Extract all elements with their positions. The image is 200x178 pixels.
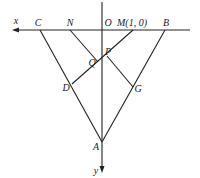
point-g-label: G [134, 83, 141, 94]
point-b-label: B [163, 17, 169, 28]
point-n-label: N [66, 17, 75, 28]
origin-label: O [104, 17, 111, 28]
point-c-label: C [35, 17, 42, 28]
x-axis-label: x [13, 15, 19, 26]
diagram-canvas: x y O A B C D G N M(1, 0) P Q [0, 0, 200, 178]
y-axis-label: y [93, 165, 99, 176]
x-axis-arrow-icon [12, 28, 19, 33]
segment-pg [107, 56, 133, 87]
point-a-label: A [92, 141, 100, 152]
geometry-diagram: x y O A B C D G N M(1, 0) P Q [0, 0, 200, 178]
labels: x y O A B C D G N M(1, 0) P Q [13, 15, 169, 176]
y-axis-arrow-icon [100, 166, 105, 173]
point-q-label: Q [88, 57, 96, 68]
point-p-label: P [104, 46, 111, 57]
point-d-label: D [61, 82, 70, 93]
point-m-label: M(1, 0) [116, 17, 148, 29]
segment-ac [40, 30, 102, 142]
